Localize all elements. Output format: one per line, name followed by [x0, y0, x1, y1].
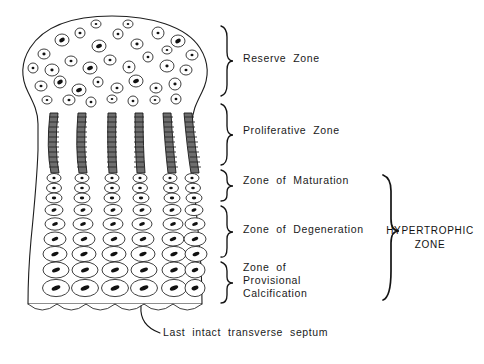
zone-label-degeneration: Zone of Degeneration — [243, 223, 364, 235]
zone-label-reserve: Reserve Zone — [243, 52, 320, 64]
growth-plate-diagram: Reserve Zone Proliferative Zone Zone of … — [0, 0, 484, 364]
brace-maturation — [221, 170, 233, 201]
scalloped-lower-border — [28, 304, 202, 310]
zone-label-calcification-line2: Provisional — [243, 274, 301, 286]
brace-reserve — [221, 26, 233, 96]
brace-hypertrophic-group — [383, 175, 399, 300]
brace-proliferative — [221, 104, 233, 165]
zone-label-calcification-line1: Zone of — [243, 261, 286, 273]
brace-degeneration — [221, 206, 233, 257]
group-label-hypertrophic-line2: ZONE — [415, 239, 446, 250]
zone-label-calcification-line3: Calcification — [243, 287, 307, 299]
brace-calcification — [221, 262, 233, 303]
zone-label-proliferative: Proliferative Zone — [243, 124, 340, 136]
figure-canvas: Reserve Zone Proliferative Zone Zone of … — [0, 0, 484, 364]
zone-label-maturation: Zone of Maturation — [243, 174, 349, 186]
zone-braces — [221, 26, 233, 303]
group-label-hypertrophic-line1: HYPERTROPHIC — [386, 225, 474, 236]
annotation-last-intact-transverse-septum: Last intact transverse septum — [163, 326, 328, 338]
